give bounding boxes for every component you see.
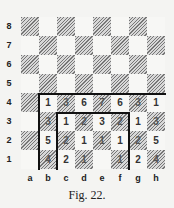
square-g4: 3: [129, 93, 147, 112]
rank-label: 3: [4, 112, 14, 131]
outer-region-top-border: [39, 93, 166, 95]
square-b7: [39, 36, 57, 55]
square-f6: [111, 55, 129, 74]
square-value: 3: [44, 116, 52, 127]
square-f5: [111, 74, 129, 93]
square-value: 1: [80, 154, 88, 165]
file-label: c: [57, 173, 75, 183]
square-f3: 2: [111, 112, 129, 131]
square-h8: [147, 17, 165, 36]
square-value: 2: [134, 135, 142, 146]
square-e3: 3: [93, 112, 111, 131]
square-d7: [75, 36, 93, 55]
square-b2: 5: [39, 131, 57, 150]
square-c8: [57, 17, 75, 36]
square-value: 4: [44, 154, 52, 165]
square-a7: [21, 36, 39, 55]
file-label: d: [75, 173, 93, 183]
square-value: 1: [116, 135, 124, 146]
figure-caption: Fig. 22.: [0, 188, 174, 203]
square-c1: 2: [57, 150, 75, 169]
square-f7: [111, 36, 129, 55]
square-b8: [39, 17, 57, 36]
square-value: 5: [44, 135, 52, 146]
square-a1: [21, 150, 39, 169]
square-value: 1: [62, 116, 70, 127]
square-value: 3: [152, 116, 160, 127]
square-g1: 2: [129, 150, 147, 169]
square-d2: 1: [75, 131, 93, 150]
inner-region-left-border: [56, 112, 58, 170]
square-value: 2: [134, 154, 142, 165]
square-value: 4: [152, 154, 160, 165]
chess-board: 136763131232135211125421124: [21, 17, 165, 169]
square-value: 6: [80, 97, 88, 108]
square-h7: [147, 36, 165, 55]
inner-region-top-border: [57, 112, 130, 114]
square-d5: [75, 74, 93, 93]
square-h1: 4: [147, 150, 165, 169]
square-h3: 3: [147, 112, 165, 131]
square-c2: 2: [57, 131, 75, 150]
square-g7: [129, 36, 147, 55]
square-a4: [21, 93, 39, 112]
square-a6: [21, 55, 39, 74]
rank-label: 4: [4, 93, 14, 112]
square-c5: [57, 74, 75, 93]
file-label: b: [39, 173, 57, 183]
inner-region-right-border: [128, 112, 130, 170]
rank-label: 7: [4, 36, 14, 55]
square-b3: 3: [39, 112, 57, 131]
square-a3: [21, 112, 39, 131]
square-c7: [57, 36, 75, 55]
square-b1: 4: [39, 150, 57, 169]
square-g6: [129, 55, 147, 74]
square-value: 1: [44, 97, 52, 108]
square-d4: 6: [75, 93, 93, 112]
square-f8: [111, 17, 129, 36]
square-a5: [21, 74, 39, 93]
square-value: 1: [152, 97, 160, 108]
square-c3: 1: [57, 112, 75, 131]
rank-label: 5: [4, 74, 14, 93]
square-c4: 3: [57, 93, 75, 112]
square-e1: [93, 150, 111, 169]
square-f2: 1: [111, 131, 129, 150]
square-value: 7: [98, 97, 106, 108]
square-d1: 1: [75, 150, 93, 169]
square-h4: 1: [147, 93, 165, 112]
file-label: f: [111, 173, 129, 183]
square-e8: [93, 17, 111, 36]
file-label: e: [93, 173, 111, 183]
file-label: a: [21, 173, 39, 183]
square-a2: [21, 131, 39, 150]
square-b6: [39, 55, 57, 74]
rank-label: 8: [4, 17, 14, 36]
square-e5: [93, 74, 111, 93]
square-g3: 1: [129, 112, 147, 131]
square-value: 2: [80, 116, 88, 127]
square-a8: [21, 17, 39, 36]
square-value: 1: [98, 135, 106, 146]
square-value: 1: [116, 154, 124, 165]
square-h6: [147, 55, 165, 74]
outer-region-left-border: [38, 93, 40, 170]
square-e4: 7: [93, 93, 111, 112]
square-d8: [75, 17, 93, 36]
square-value: 3: [62, 97, 70, 108]
square-g5: [129, 74, 147, 93]
file-label: g: [129, 173, 147, 183]
square-f4: 6: [111, 93, 129, 112]
square-value: 6: [116, 97, 124, 108]
rank-label: 1: [4, 150, 14, 169]
square-b5: [39, 74, 57, 93]
square-b4: 1: [39, 93, 57, 112]
square-g8: [129, 17, 147, 36]
square-c6: [57, 55, 75, 74]
square-f1: 1: [111, 150, 129, 169]
square-h5: [147, 74, 165, 93]
square-g2: 2: [129, 131, 147, 150]
square-e7: [93, 36, 111, 55]
square-value: 5: [152, 135, 160, 146]
square-d6: [75, 55, 93, 74]
